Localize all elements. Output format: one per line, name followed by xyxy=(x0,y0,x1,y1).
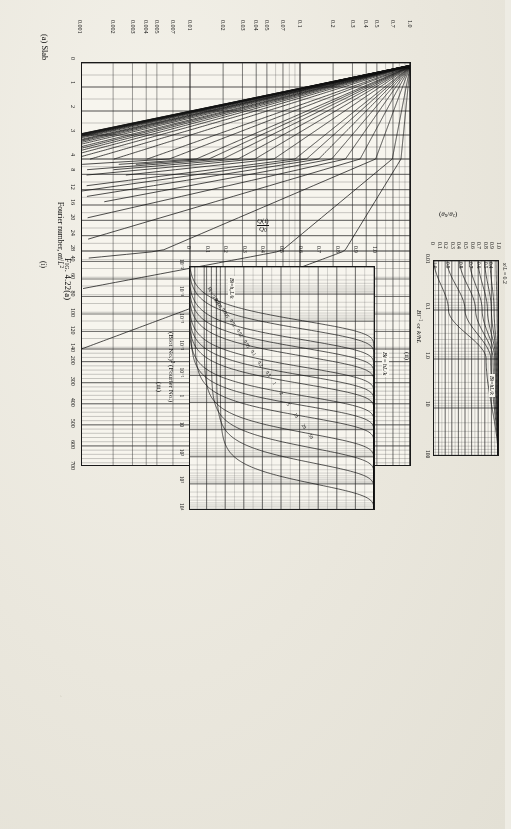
tick-label: 16 xyxy=(70,199,77,205)
tick-label: 300 xyxy=(70,377,77,386)
tick-label: 700 xyxy=(70,461,77,470)
tick-label: 0.6 xyxy=(298,246,304,253)
tick-label: 10² xyxy=(179,449,185,456)
tick-label: 0.02 xyxy=(220,20,227,30)
tick-label: 0.2 xyxy=(443,242,449,249)
tick-label: 0.01 xyxy=(187,20,194,30)
tick-label: 1.0 xyxy=(372,246,378,253)
tick-label: 0.03 xyxy=(240,20,247,30)
tick-label: 0.2 xyxy=(223,246,229,253)
tick-label: 1 xyxy=(70,81,77,84)
tick-label: 200 xyxy=(70,356,77,365)
tick-label: 0.6 xyxy=(470,242,476,249)
tick-label: 8 xyxy=(70,168,77,171)
tick-label: 0.2 xyxy=(330,20,337,27)
tick-label: 10⁻⁴ xyxy=(179,286,185,296)
tick-label: 0.3 xyxy=(242,246,248,253)
figure-caption-prefix: Fig. xyxy=(63,258,73,272)
tick-label: 0.4 xyxy=(488,262,494,268)
tick-label: 0.5 xyxy=(374,20,381,27)
tick-label: 10⁻² xyxy=(179,340,185,350)
tick-label: 0 xyxy=(70,57,77,60)
tick-label: 4 xyxy=(70,153,77,156)
tick-label: 0.005 xyxy=(154,20,161,33)
panel-iii-yaxis-title: Q(t) Q0 xyxy=(257,218,269,234)
tick-label: 1 xyxy=(179,395,185,398)
tick-label: 0.04 xyxy=(253,20,260,30)
panel-iii-id: (iii) xyxy=(156,382,163,392)
tick-label: 100 xyxy=(70,308,77,317)
tick-label: 0.5 xyxy=(463,242,469,249)
tick-label: 0.07 xyxy=(280,20,287,30)
tick-label: 0.1 xyxy=(437,242,443,249)
tick-label: 0.8 xyxy=(335,246,341,253)
tick-label: 0.4 xyxy=(363,20,370,27)
panel-ii-xaxis-title: Bi−1 or k/hL xyxy=(415,310,423,343)
tick-label: 0.1 xyxy=(425,303,431,310)
tick-label: 0.9 xyxy=(353,246,359,253)
tick-label: 10⁻⁵ xyxy=(179,259,185,269)
tick-label: 1.0 xyxy=(432,262,438,268)
figure-caption-number: 4.22(a) xyxy=(63,274,73,300)
tick-label: 0.5 xyxy=(279,246,285,253)
tick-label: 0.9 xyxy=(489,242,495,249)
tick-label: 0 xyxy=(430,242,436,245)
figure-caption: Fig. 4.22(a) xyxy=(63,258,73,300)
tick-label: 100 xyxy=(425,450,431,458)
tick-label: 0 xyxy=(186,246,192,249)
panel-i-id: (i) xyxy=(39,261,48,268)
tick-label: 400 xyxy=(70,398,77,407)
panel-ii: Bi=hL/k 00.10.20.30.40.50.60.70.80.91.00… xyxy=(409,224,511,486)
tick-label: 3 xyxy=(70,129,77,132)
panel-i-part-label: (a) Slab xyxy=(40,34,49,60)
tick-label: 140 xyxy=(70,343,77,352)
panel-iii-xaxis-title: (Biot No.)2 (Fourier No.) xyxy=(167,332,175,402)
tick-label: 20 xyxy=(70,214,77,220)
panel-ii-plot-frame xyxy=(433,260,499,456)
tick-label: 0.1 xyxy=(205,246,211,253)
tick-label: 28 xyxy=(70,245,77,251)
tick-label: 10 xyxy=(179,422,185,427)
tick-label: 10⁴ xyxy=(179,503,185,510)
tick-label: 12 xyxy=(70,184,77,190)
tick-label: 2 xyxy=(70,105,77,108)
tick-label: 0.1 xyxy=(297,20,304,27)
panel-ii-id: (ii) xyxy=(404,352,411,360)
tick-label: 0.002 xyxy=(110,20,117,33)
tick-label: 600 xyxy=(70,440,77,449)
tick-label: 24 xyxy=(70,230,77,236)
tick-label: 0.4 xyxy=(260,246,266,253)
tick-label: 0.7 xyxy=(316,246,322,253)
tick-label: 0.6 xyxy=(476,262,482,268)
tick-label: 0.9 xyxy=(445,262,451,268)
panel-ii-yaxis-title: (θx/θc) xyxy=(439,210,457,218)
tick-label: 10⁻³ xyxy=(179,313,185,323)
tick-label: 0.05 xyxy=(264,20,271,30)
panel-ii-lead-curve-label: x/L = 0.2 xyxy=(502,263,508,284)
tick-label: 0.8 xyxy=(458,262,464,268)
tick-label: 0.7 xyxy=(476,242,482,249)
panel-iii: Bi=hcL/k 00.10.20.30.40.50.60.70.80.91.0… xyxy=(125,224,385,524)
tick-label: 1.0 xyxy=(496,242,502,249)
panel-ii-legend: Bi=hL/k xyxy=(489,374,495,397)
panel-iii-legend: Bi=hcL/k xyxy=(228,276,235,301)
tick-label: 0.001 xyxy=(77,20,84,33)
tick-label: 0.01 xyxy=(425,254,431,263)
tick-label: 0.3 xyxy=(450,242,456,249)
tick-label: 10 xyxy=(425,401,431,406)
tick-label: 500 xyxy=(70,419,77,428)
tick-label: 10³ xyxy=(179,476,185,483)
tick-label: 0.8 xyxy=(483,242,489,249)
tick-label: 0.4 xyxy=(456,242,462,249)
tick-label: 0.7 xyxy=(390,20,397,27)
tick-label: 1.0 xyxy=(407,20,414,27)
tick-label: 1.0 xyxy=(425,352,431,359)
tick-label: 0.5 xyxy=(483,262,489,268)
tick-label: 0.007 xyxy=(170,20,177,33)
panel-ii-curves xyxy=(434,261,498,455)
tick-label: 120 xyxy=(70,326,77,335)
tick-label: 0.3 xyxy=(350,20,357,27)
tick-label: 0.004 xyxy=(143,20,150,33)
